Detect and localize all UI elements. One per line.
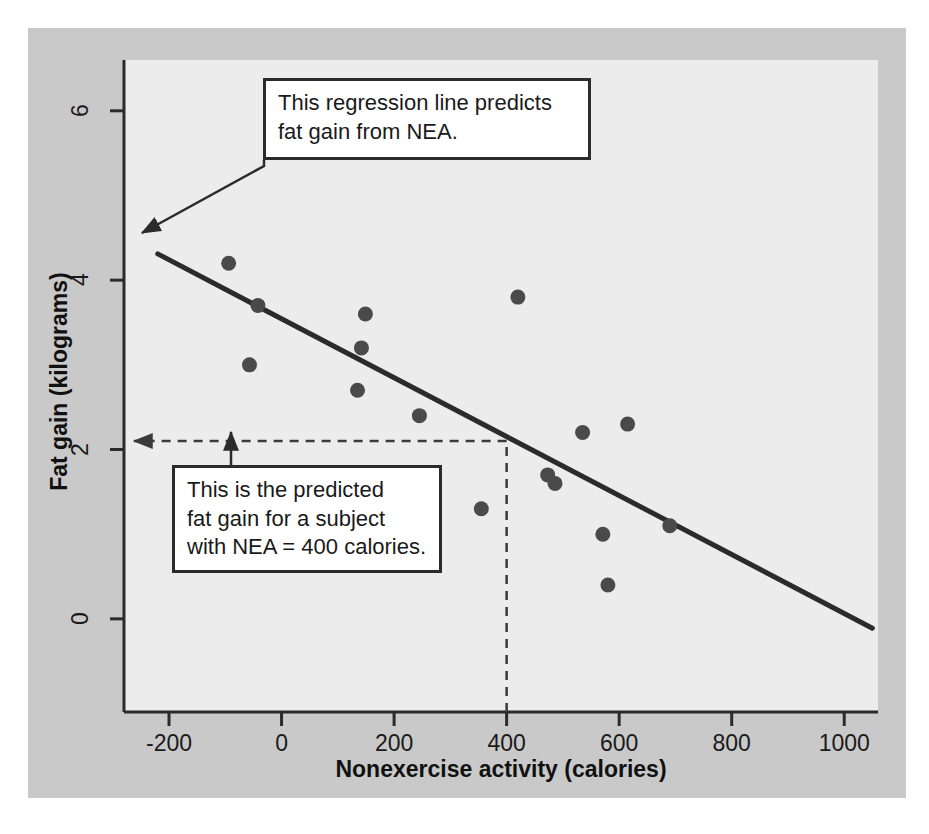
y-tick-label: 6 — [67, 88, 94, 132]
x-axis-label: Nonexercise activity (calories) — [124, 756, 878, 783]
regression-callout: This regression line predicts fat gain f… — [263, 78, 591, 160]
x-tick-label: 200 — [344, 730, 444, 757]
data-point — [600, 577, 615, 592]
data-point — [250, 298, 265, 313]
data-point — [412, 408, 427, 423]
data-point — [548, 476, 563, 491]
data-point — [662, 518, 677, 533]
x-tick-label: 400 — [457, 730, 557, 757]
data-point — [510, 290, 525, 305]
y-axis-ticks — [110, 111, 124, 619]
x-tick-label: -200 — [119, 730, 219, 757]
callout-leaders — [142, 160, 264, 465]
regression-callout-leader — [142, 160, 264, 233]
x-axis-ticks — [169, 712, 844, 726]
data-point — [358, 307, 373, 322]
x-tick-label: 600 — [569, 730, 669, 757]
data-point — [221, 256, 236, 271]
y-tick-label: 0 — [67, 596, 94, 640]
data-point — [575, 425, 590, 440]
x-tick-label: 800 — [682, 730, 782, 757]
data-point — [595, 527, 610, 542]
y-tick-label: 4 — [67, 258, 94, 302]
x-tick-label: 0 — [232, 730, 332, 757]
figure-container: This regression line predicts fat gain f… — [0, 0, 929, 834]
data-point — [350, 383, 365, 398]
data-point — [242, 357, 257, 372]
x-tick-label: 1000 — [794, 730, 894, 757]
predicted-callout: This is the predicted fat gain for a sub… — [172, 465, 442, 573]
data-point — [474, 501, 489, 516]
y-tick-label: 2 — [67, 427, 94, 471]
data-point — [620, 417, 635, 432]
data-point — [354, 340, 369, 355]
